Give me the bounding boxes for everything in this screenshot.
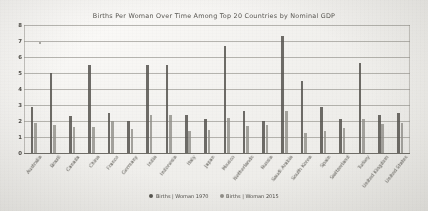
bar[interactable] [243, 111, 246, 153]
bar-group [391, 25, 410, 153]
chart-legend: Births | Woman 1970 Births | Woman 2015 [4, 193, 424, 199]
bar[interactable] [401, 123, 404, 153]
y-tick-7: 7 [11, 38, 22, 44]
y-tick-4: 4 [11, 86, 22, 92]
bar[interactable] [304, 133, 307, 153]
x-tick-label: Brazil [49, 154, 62, 168]
x-tick-label: Turkey [356, 154, 371, 170]
y-tick-2: 2 [11, 118, 22, 124]
bar[interactable] [262, 121, 265, 153]
bar[interactable] [166, 65, 169, 153]
bar-group [352, 25, 371, 153]
legend-swatch-2015 [220, 194, 224, 198]
bar[interactable] [281, 36, 284, 153]
bar[interactable] [34, 123, 37, 153]
bar-group [256, 25, 275, 153]
bar[interactable] [188, 131, 191, 153]
y-tick-0: 0 [11, 150, 22, 156]
bar[interactable] [150, 115, 153, 153]
y-tick-8: 8 [11, 22, 22, 28]
bar-group [217, 25, 236, 153]
x-tick-label: India [146, 154, 158, 167]
legend-item-2015[interactable]: Births | Woman 2015 [220, 193, 279, 199]
bar[interactable] [185, 115, 188, 153]
bar[interactable] [266, 125, 269, 153]
bar[interactable] [204, 119, 207, 153]
plot-area: 012345678 [24, 25, 410, 153]
chart-title: Births Per Woman Over Time Among Top 20 … [4, 12, 424, 20]
bar[interactable] [108, 113, 111, 153]
bar[interactable] [69, 116, 72, 153]
bar[interactable] [301, 81, 304, 153]
y-tick-1: 1 [11, 134, 22, 140]
y-tick-5: 5 [11, 70, 22, 76]
legend-item-1970[interactable]: Births | Woman 1970 [149, 193, 208, 199]
y-tick-3: 3 [11, 102, 22, 108]
bar[interactable] [224, 46, 227, 153]
x-tick-label: Russia [260, 154, 274, 170]
x-tick-label: Indonesia [158, 154, 177, 176]
bar-group [140, 25, 159, 153]
x-tick-label: Italy [186, 154, 197, 166]
bar[interactable] [127, 121, 130, 153]
bar[interactable] [285, 111, 288, 153]
bar[interactable] [146, 65, 149, 153]
bar[interactable] [343, 128, 346, 153]
x-tick-label: Switzerland [329, 154, 351, 180]
bar[interactable] [339, 119, 342, 153]
bar-group [333, 25, 352, 153]
x-tick-label: France [105, 154, 120, 171]
bar[interactable] [73, 127, 76, 153]
bar-group [159, 25, 178, 153]
bar-group [275, 25, 294, 153]
legend-swatch-1970 [149, 194, 153, 198]
bar-group [178, 25, 197, 153]
x-axis-tick-labels: AustraliaBrazilCanadaChinaFranceGermanyI… [24, 154, 410, 194]
x-tick-label: Australia [24, 154, 42, 175]
bar[interactable] [324, 131, 327, 153]
bar[interactable] [50, 73, 53, 153]
bar-chart: Births Per Woman Over Time Among Top 20 … [4, 3, 424, 208]
bar[interactable] [111, 121, 114, 153]
bar-group [121, 25, 140, 153]
bar-group [43, 25, 62, 153]
x-tick-label: Spain [319, 154, 332, 168]
x-tick-label: Canada [65, 154, 81, 172]
bar[interactable] [381, 124, 384, 153]
bar-group [198, 25, 217, 153]
bar[interactable] [227, 118, 230, 153]
paper-speck [39, 42, 41, 44]
bar-group [63, 25, 82, 153]
bar[interactable] [169, 115, 172, 153]
bar[interactable] [320, 107, 323, 153]
bar[interactable] [359, 63, 362, 153]
bar[interactable] [378, 115, 381, 153]
bar[interactable] [397, 113, 400, 153]
bar-group [101, 25, 120, 153]
bar-group [236, 25, 255, 153]
bar[interactable] [131, 129, 134, 153]
legend-label-1970: Births | Woman 1970 [156, 193, 209, 199]
bar-group [294, 25, 313, 153]
bar-group [24, 25, 43, 153]
bar[interactable] [88, 65, 91, 153]
x-tick-label: China [87, 154, 100, 169]
bar[interactable] [31, 107, 34, 153]
bar-group [314, 25, 333, 153]
x-tick-label: Mexico [220, 154, 235, 171]
bar-group [371, 25, 390, 153]
x-tick-label: Japan [203, 154, 216, 168]
bar[interactable] [53, 125, 56, 153]
bar[interactable] [208, 130, 211, 153]
y-tick-6: 6 [11, 54, 22, 60]
bar[interactable] [92, 127, 95, 153]
bar-group [82, 25, 101, 153]
x-tick-label: Germany [120, 154, 139, 175]
legend-label-2015: Births | Woman 2015 [226, 193, 279, 199]
bar[interactable] [246, 126, 249, 153]
bar[interactable] [362, 119, 365, 153]
